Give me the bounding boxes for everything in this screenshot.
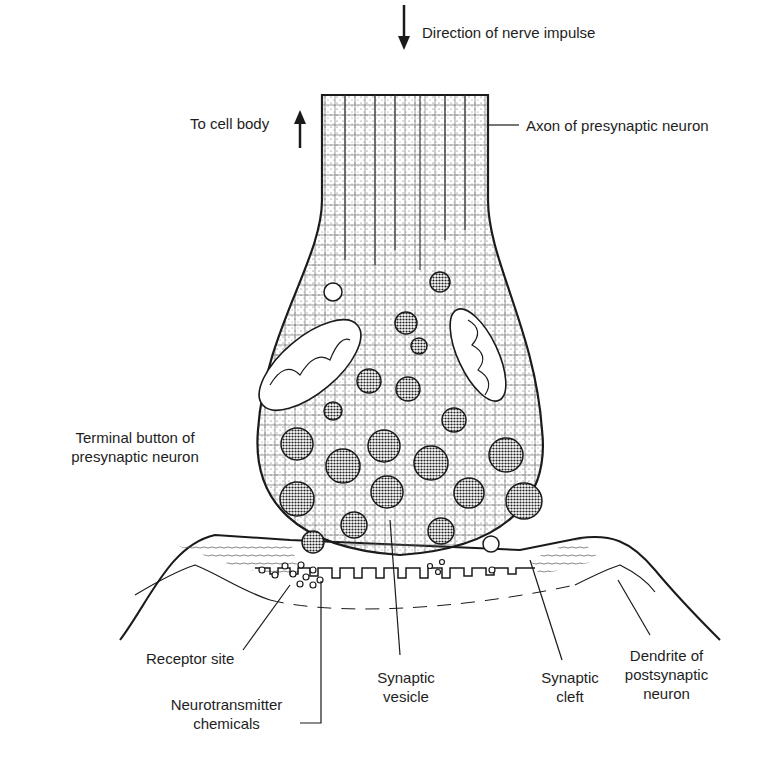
label-terminal-button: Terminal button of presynaptic neuron [30,428,240,466]
label-neuro-line2: chemicals [144,714,309,733]
label-neurotransmitter: Neurotransmitter chemicals [144,695,309,733]
label-direction-of-impulse: Direction of nerve impulse [422,23,595,42]
label-dendrite-line2: postsynaptic [614,665,719,684]
label-cleft-line2: cleft [530,687,610,706]
label-synaptic-cleft: Synaptic cleft [530,668,610,706]
direction-arrow [398,5,410,50]
label-receptor-site: Receptor site [146,649,234,668]
synapse-diagram: Direction of nerve impulse To cell body … [0,0,777,760]
label-dendrite-line3: neuron [614,684,719,703]
label-dendrite-line1: Dendrite of [614,646,719,665]
label-terminal-line1: Terminal button of [30,428,240,447]
label-terminal-line2: presynaptic neuron [30,447,240,466]
label-to-cell-body: To cell body [190,114,269,133]
label-dendrite: Dendrite of postsynaptic neuron [614,646,719,703]
label-synaptic-vesicle: Synaptic vesicle [366,668,446,706]
label-axon: Axon of presynaptic neuron [526,116,709,135]
label-cleft-line1: Synaptic [530,668,610,687]
to-cell-body-arrow [294,110,306,148]
label-vesicle-line1: Synaptic [366,668,446,687]
label-vesicle-line2: vesicle [366,687,446,706]
label-neuro-line1: Neurotransmitter [144,695,309,714]
